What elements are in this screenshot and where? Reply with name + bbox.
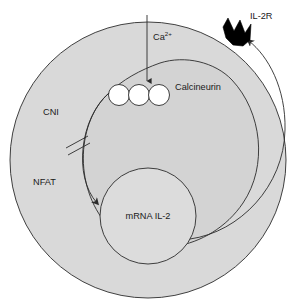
diagram-canvas: Ca2+ Calcineurin CNI NFAT mRNA IL-2 IL-2… bbox=[0, 0, 300, 300]
nfat-label: NFAT bbox=[33, 177, 56, 187]
cni-label: CNI bbox=[43, 107, 59, 117]
mrna-il2-label: mRNA IL-2 bbox=[126, 211, 171, 221]
il2-receptor-spike bbox=[223, 18, 251, 46]
calcineurin-label: Calcineurin bbox=[175, 82, 221, 92]
calcineurin-subunit bbox=[129, 85, 150, 106]
calcineurin-subunit bbox=[149, 85, 170, 106]
calcineurin-subunit-circles bbox=[109, 85, 170, 106]
cell-signaling-diagram: Ca2+ Calcineurin CNI NFAT mRNA IL-2 IL-2… bbox=[0, 0, 300, 300]
il2r-label: IL-2R bbox=[250, 11, 273, 21]
calcium-charge-superscript: 2+ bbox=[165, 30, 172, 37]
calcineurin-subunit bbox=[109, 85, 130, 106]
